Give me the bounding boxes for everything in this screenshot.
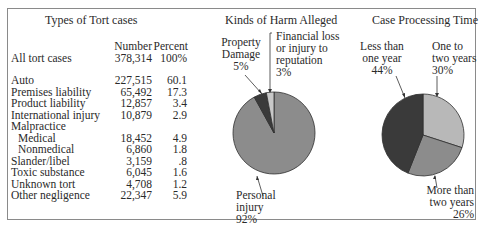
personal-label-3: 92% (236, 213, 257, 225)
property-label-2: Damage (216, 48, 266, 60)
less-label-2: one year (352, 52, 412, 64)
more-label-1: More than (400, 184, 474, 196)
property-label-1: Property (216, 36, 266, 48)
personal-label-2: injury (236, 201, 263, 213)
one-label-1: One to (432, 40, 463, 52)
less-label-3: 44% (352, 64, 412, 76)
more-label-2: two years (400, 196, 474, 208)
financial-label-1: Financial loss (276, 30, 340, 42)
more-label-3: 26% (400, 208, 474, 220)
one-label-2: two years (432, 52, 476, 64)
harm-pie (233, 92, 315, 174)
property-label-3: 5% (216, 60, 266, 72)
financial-label-3: reputation (276, 54, 323, 66)
financial-label-4: 3% (276, 66, 291, 78)
personal-label-1: Personal (236, 189, 276, 201)
less-label-1: Less than (352, 40, 412, 52)
financial-label-2: or injury to (276, 42, 328, 54)
one-label-3: 30% (432, 64, 453, 76)
time-title: Case Processing Time (372, 13, 478, 28)
time-pie (382, 94, 464, 176)
harm-title: Kinds of Harm Alleged (225, 13, 337, 28)
